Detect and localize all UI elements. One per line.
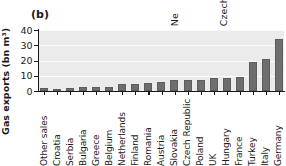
y-axis-title-text: Gas exports (bn m³) bbox=[1, 28, 11, 135]
x-axis-category-label: Other sales bbox=[40, 96, 49, 166]
x-axis-category-label: Serbia bbox=[66, 96, 75, 166]
x-axis-category: Greece bbox=[92, 96, 100, 166]
x-axis-category: Serbia bbox=[66, 96, 74, 166]
x-axis-category-label: Italy bbox=[261, 96, 270, 166]
x-axis-tick bbox=[253, 92, 254, 95]
x-axis-tick bbox=[122, 92, 123, 95]
x-axis-category-label: Romania bbox=[144, 96, 153, 166]
x-axis-tick bbox=[109, 92, 110, 95]
bar bbox=[275, 39, 283, 91]
x-axis-category-label: Finland bbox=[131, 96, 140, 166]
bar bbox=[236, 77, 244, 91]
x-axis-category: Poland bbox=[197, 96, 205, 166]
x-axis-category: Hungary bbox=[223, 96, 231, 166]
y-axis-tick-label: 0 bbox=[26, 87, 32, 97]
x-axis-tick bbox=[188, 92, 189, 95]
bar bbox=[184, 80, 192, 91]
x-axis-category: Italy bbox=[262, 96, 270, 166]
x-axis-tick bbox=[227, 92, 228, 95]
x-axis-category: Slovakia bbox=[170, 96, 178, 166]
x-axis-tick bbox=[201, 92, 202, 95]
x-axis-tick bbox=[96, 92, 97, 95]
x-axis-category: Croatia bbox=[53, 96, 61, 166]
y-axis-tick: 10 bbox=[34, 76, 38, 77]
x-axis-tick bbox=[266, 92, 267, 95]
x-axis-tick bbox=[240, 92, 241, 95]
x-axis-categories: Other salesCroatiaSerbiaBulgariaGreeceBe… bbox=[39, 96, 284, 166]
plot-area bbox=[39, 30, 284, 91]
y-axis-tick: 30 bbox=[34, 45, 38, 46]
x-axis-tick bbox=[162, 92, 163, 95]
y-axis-tick-label: 10 bbox=[20, 72, 32, 82]
x-axis-category: Czech Republic bbox=[184, 96, 192, 166]
panel-label: (b) bbox=[31, 9, 49, 20]
y-axis-tick-label: 40 bbox=[20, 26, 32, 36]
x-axis-tick bbox=[148, 92, 149, 95]
x-axis-category: Belgium bbox=[105, 96, 113, 166]
y-axis-tick-label: 20 bbox=[20, 56, 32, 66]
x-axis-category: UK bbox=[210, 96, 218, 166]
clipped-label-czech: Czech bbox=[219, 0, 229, 26]
x-axis-category: Finland bbox=[131, 96, 139, 166]
y-axis-tick-label: 30 bbox=[20, 41, 32, 51]
y-axis-tick: 0 bbox=[34, 91, 38, 92]
x-axis-category-label: France bbox=[235, 96, 244, 166]
x-axis-category: Germany bbox=[275, 96, 283, 166]
x-axis-category-label: Slovakia bbox=[170, 96, 179, 166]
y-axis-tick: 40 bbox=[34, 30, 38, 31]
x-axis-category-label: Austria bbox=[157, 96, 166, 166]
y-axis-title: Gas exports (bn m³) bbox=[0, 28, 12, 138]
x-axis-category: Romania bbox=[144, 96, 152, 166]
x-axis-tick bbox=[44, 92, 45, 95]
x-axis-category: Bulgaria bbox=[79, 96, 87, 166]
x-axis-category-label: Poland bbox=[196, 96, 205, 166]
x-axis-category: Turkey bbox=[249, 96, 257, 166]
x-axis-category: Austria bbox=[157, 96, 165, 166]
x-axis-tick bbox=[279, 92, 280, 95]
bar-series bbox=[39, 30, 284, 91]
x-axis-category-label: Turkey bbox=[248, 96, 257, 166]
x-axis-tick bbox=[83, 92, 84, 95]
bar bbox=[144, 83, 152, 91]
x-axis-category: France bbox=[236, 96, 244, 166]
x-axis-category: Other sales bbox=[40, 96, 48, 166]
bar bbox=[197, 80, 205, 91]
bar bbox=[249, 62, 257, 91]
y-axis-tick: 20 bbox=[34, 61, 38, 62]
x-axis-tick bbox=[135, 92, 136, 95]
clipped-label-netherlands: Ne bbox=[170, 13, 180, 26]
x-axis-category-label: Netherlands bbox=[118, 96, 127, 166]
bar bbox=[262, 59, 270, 91]
x-axis-tick bbox=[214, 92, 215, 95]
bar bbox=[170, 80, 178, 91]
bar bbox=[223, 78, 231, 91]
bar bbox=[157, 82, 165, 91]
x-axis-tick bbox=[175, 92, 176, 95]
x-axis-tick bbox=[57, 92, 58, 95]
bar bbox=[131, 84, 139, 91]
y-axis-line bbox=[38, 29, 39, 92]
x-axis-category-label: Czech Republic bbox=[183, 96, 192, 166]
x-axis-category-label: Germany bbox=[274, 96, 283, 166]
bar bbox=[210, 78, 218, 91]
x-axis-category-label: Belgium bbox=[105, 96, 114, 166]
x-axis-category-label: Hungary bbox=[222, 96, 231, 166]
x-axis-tick bbox=[70, 92, 71, 95]
x-axis-category-label: Bulgaria bbox=[79, 96, 88, 166]
x-axis-category-label: Greece bbox=[92, 96, 101, 166]
x-axis-category: Netherlands bbox=[118, 96, 126, 166]
x-axis-category-label: Croatia bbox=[53, 96, 62, 166]
x-axis-category-label: UK bbox=[209, 96, 218, 166]
